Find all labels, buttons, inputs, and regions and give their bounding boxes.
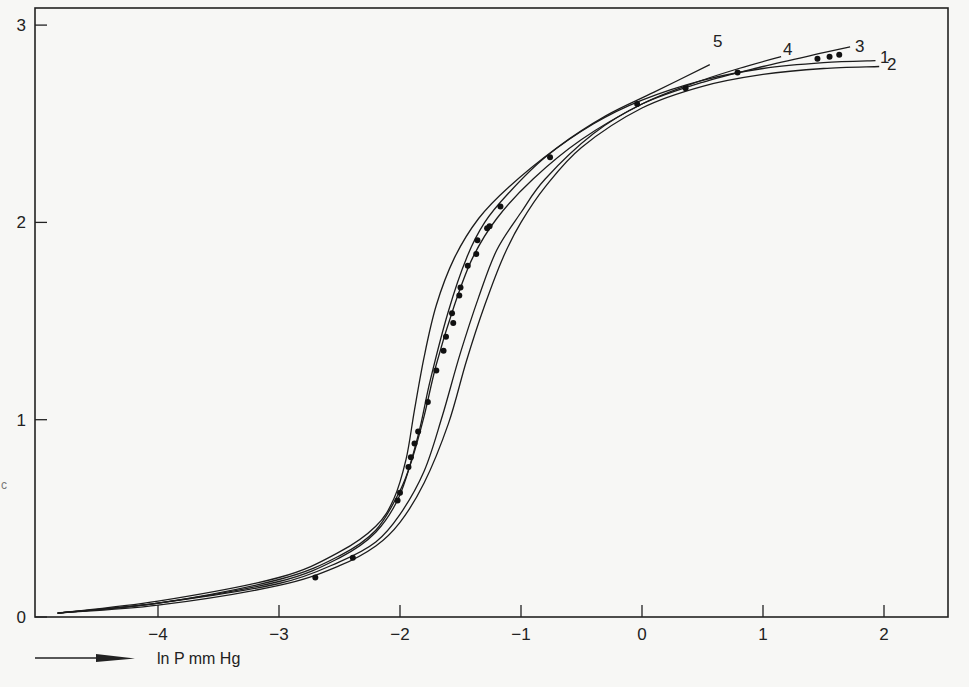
x-tick-label: −3 xyxy=(269,625,288,644)
data-point xyxy=(814,56,820,62)
data-point xyxy=(474,237,480,243)
curve-label-3: 3 xyxy=(855,37,864,56)
stray-mark: c xyxy=(1,478,7,492)
arrow-head-icon xyxy=(96,654,135,662)
y-axis: 0123 xyxy=(17,16,47,627)
data-point xyxy=(397,490,403,496)
data-point xyxy=(312,575,318,581)
y-tick-label: 3 xyxy=(17,16,26,35)
data-point xyxy=(458,285,464,291)
data-point xyxy=(450,320,456,326)
curve-2 xyxy=(58,67,880,614)
data-point xyxy=(473,251,479,257)
x-axis-title: ln P mm Hg xyxy=(35,650,240,667)
curve-1 xyxy=(58,61,876,614)
experimental-points xyxy=(312,52,842,581)
data-point xyxy=(405,464,411,470)
data-point xyxy=(683,85,689,91)
data-point xyxy=(487,223,493,229)
y-tick-label: 0 xyxy=(17,608,26,627)
curve-5 xyxy=(58,65,710,614)
x-tick-label: 1 xyxy=(758,625,767,644)
curves xyxy=(58,47,880,613)
curve-label-5: 5 xyxy=(713,32,722,51)
data-point xyxy=(735,69,741,75)
curve-label-4: 4 xyxy=(783,40,792,59)
curve-4 xyxy=(58,57,782,613)
curve-3 xyxy=(58,47,851,613)
data-point xyxy=(441,348,447,354)
plot-frame xyxy=(35,8,948,617)
data-point xyxy=(443,334,449,340)
data-point xyxy=(415,429,421,435)
y-tick-label: 2 xyxy=(17,213,26,232)
x-tick-label: −2 xyxy=(390,625,409,644)
isotherm-chart: 0123 −4−3−2−1012 5 4 3 1 2 ln P mm Hg c xyxy=(0,0,969,687)
data-point xyxy=(827,54,833,60)
data-point xyxy=(465,263,471,269)
data-point xyxy=(634,101,640,107)
x-tick-label: 2 xyxy=(879,625,888,644)
x-tick-label: 0 xyxy=(637,625,646,644)
data-point xyxy=(456,292,462,298)
x-axis: −4−3−2−1012 xyxy=(148,605,888,644)
x-axis-label: ln P mm Hg xyxy=(157,650,240,667)
data-point xyxy=(433,367,439,373)
curve-label-2: 2 xyxy=(887,55,896,74)
data-point xyxy=(497,204,503,210)
data-point xyxy=(395,498,401,504)
x-tick-label: −1 xyxy=(511,625,530,644)
y-tick-label: 1 xyxy=(17,411,26,430)
data-point xyxy=(449,310,455,316)
data-point xyxy=(547,154,553,160)
data-point xyxy=(425,399,431,405)
x-tick-label: −4 xyxy=(148,625,167,644)
data-point xyxy=(350,555,356,561)
data-point xyxy=(836,52,842,58)
data-point xyxy=(408,454,414,460)
data-point xyxy=(412,440,418,446)
